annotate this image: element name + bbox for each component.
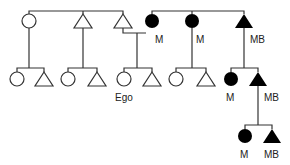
gen2-male-open: [88, 72, 106, 86]
label-ego: Ego: [115, 92, 133, 103]
gen2-male-open: [197, 72, 215, 86]
label-gen1-m-b: M: [196, 34, 204, 45]
gen1-male-mother-brother: [235, 14, 253, 28]
gen1-female-open: [22, 14, 36, 28]
gen1-female-mother: [145, 14, 159, 28]
gen2-male-filled: [249, 72, 267, 86]
label-gen1-mb: MB: [250, 34, 265, 45]
label-gen3-m: M: [240, 149, 248, 160]
gen2-male-open: [35, 72, 53, 86]
gen2-ego: [117, 72, 131, 86]
label-gen1-m-a: M: [155, 34, 163, 45]
gen1-male-father: [114, 14, 132, 28]
label-gen2-m: M: [226, 92, 234, 103]
gen2-female-open: [61, 72, 75, 86]
gen3-male-filled: [263, 129, 281, 143]
connector-lines: [17, 11, 272, 129]
gen1-male-open: [74, 14, 92, 28]
gen1-female-mother-sister: [185, 14, 199, 28]
gen2-female-open: [169, 72, 183, 86]
label-gen2-mb: MB: [264, 92, 279, 103]
label-gen3-mb: MB: [264, 149, 279, 160]
gen3-female-filled: [238, 129, 252, 143]
kinship-diagram: M M MB Ego M MB M MB: [0, 0, 290, 165]
gen2-female-filled: [224, 72, 238, 86]
gen2-male-open: [143, 72, 161, 86]
gen2-female-open: [10, 72, 24, 86]
